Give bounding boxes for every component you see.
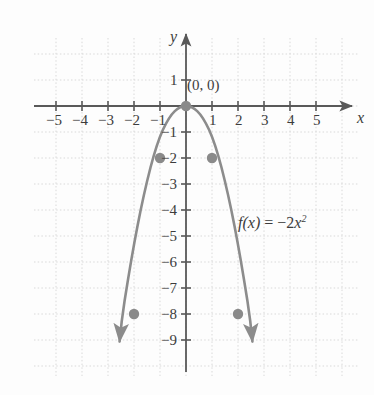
data-point-pos1 xyxy=(207,153,217,163)
function-coefficient: −2 xyxy=(277,214,294,231)
x-tick-label-neg4: −4 xyxy=(72,113,88,128)
data-point-origin xyxy=(181,101,191,111)
x-tick-label-neg3: −3 xyxy=(98,113,114,128)
function-equation-label: f(x) = −2x2 xyxy=(238,214,306,231)
function-name: f(x) xyxy=(238,214,260,231)
x-tick-label-3: 3 xyxy=(261,113,269,128)
y-axis-label: y xyxy=(170,29,177,45)
y-tick-label-neg7: −7 xyxy=(161,281,177,296)
graph-figure: −5 −4 −3 −2 −1 1 2 3 4 5 1 −1 −2 −3 −4 −… xyxy=(0,0,374,395)
y-tick-label-1: 1 xyxy=(170,73,178,88)
x-tick-label-neg2: −2 xyxy=(124,113,140,128)
x-tick-label-neg5: −5 xyxy=(46,113,62,128)
x-tick-label-1: 1 xyxy=(209,113,217,128)
origin-point-label: (0, 0) xyxy=(187,78,220,93)
y-tick-label-neg3: −3 xyxy=(161,177,177,192)
function-exponent: 2 xyxy=(301,213,306,224)
x-axis-label: x xyxy=(357,110,364,126)
parabola-plot xyxy=(0,0,374,395)
y-tick-label-neg6: −6 xyxy=(161,255,177,270)
y-tick-label-neg9: −9 xyxy=(161,333,177,348)
x-tick-label-5: 5 xyxy=(313,113,321,128)
function-equals: = xyxy=(264,214,273,231)
x-tick-label-4: 4 xyxy=(287,113,295,128)
y-tick-label-neg1: −1 xyxy=(161,125,177,140)
y-tick-label-neg4: −4 xyxy=(161,203,177,218)
x-tick-label-2: 2 xyxy=(235,113,243,128)
data-point-pos2 xyxy=(233,309,243,319)
y-tick-label-neg5: −5 xyxy=(161,229,177,244)
data-point-neg2 xyxy=(129,309,139,319)
y-tick-label-neg8: −8 xyxy=(161,307,177,322)
y-tick-label-neg2: −2 xyxy=(161,151,177,166)
